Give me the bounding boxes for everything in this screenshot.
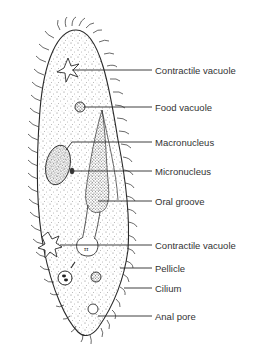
paramecium-diagram: ɪɪ Contractile vacuole Food vacuole Macr… bbox=[0, 0, 258, 362]
label-contractile-vacuole-bottom: Contractile vacuole bbox=[155, 240, 236, 251]
paramecium-illustration: ɪɪ bbox=[0, 0, 258, 362]
food-vacuole-shape bbox=[75, 102, 85, 112]
anal-pore-shape bbox=[88, 304, 98, 314]
label-anal-pore: Anal pore bbox=[155, 311, 196, 322]
label-micronucleus: Micronucleus bbox=[155, 166, 211, 177]
label-contractile-vacuole-top: Contractile vacuole bbox=[155, 65, 236, 76]
label-oral-groove: Oral groove bbox=[155, 196, 205, 207]
svg-text:ɪɪ: ɪɪ bbox=[84, 246, 88, 252]
label-macronucleus: Macronucleus bbox=[155, 137, 214, 148]
label-cilium: Cilium bbox=[155, 283, 181, 294]
micronucleus-shape bbox=[70, 168, 74, 174]
label-pellicle: Pellicle bbox=[155, 263, 185, 274]
label-food-vacuole: Food vacuole bbox=[155, 102, 212, 113]
